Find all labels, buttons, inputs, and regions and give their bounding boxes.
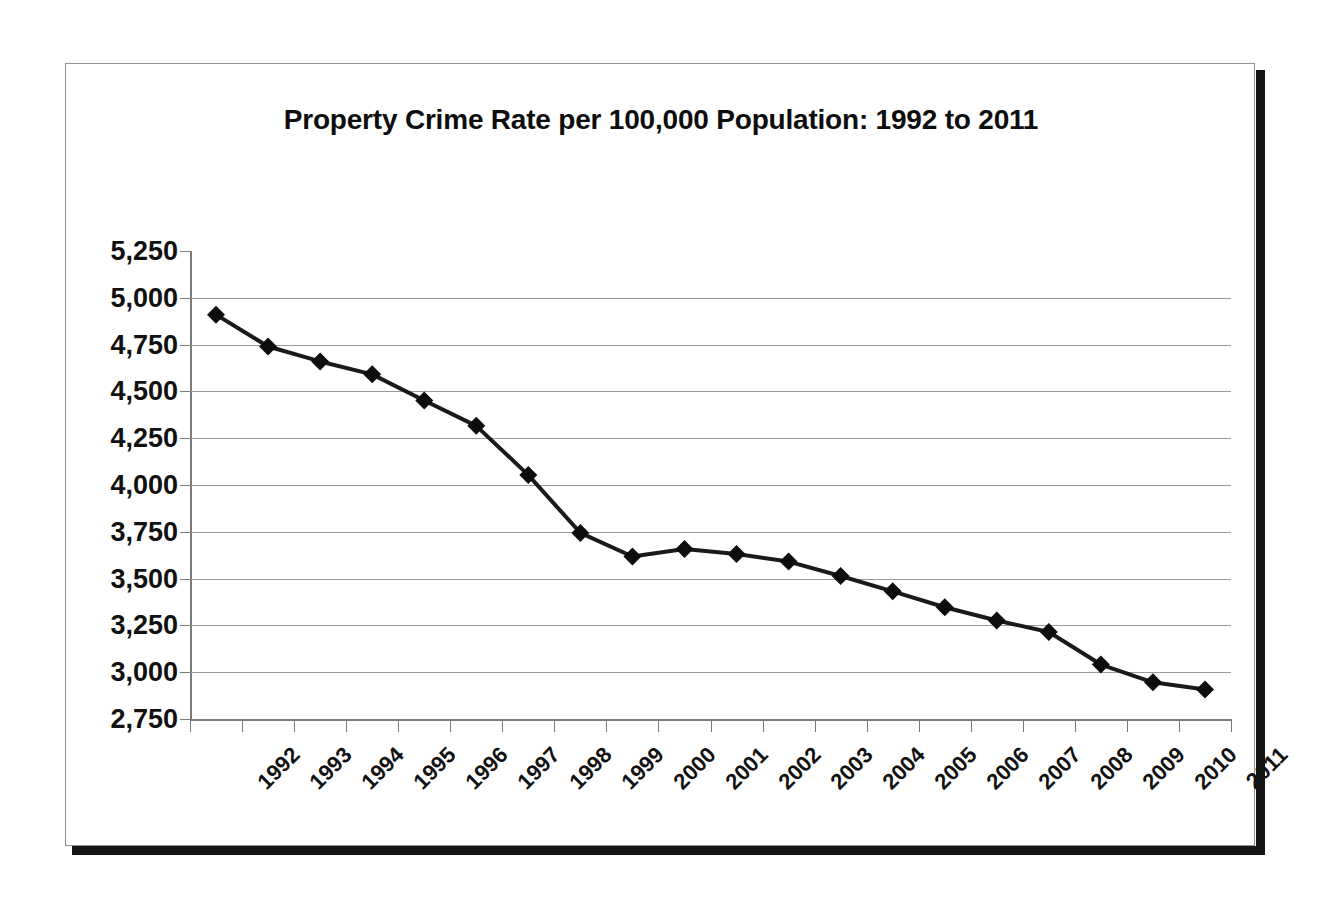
data-point-marker: 2002: 3631 (728, 545, 746, 563)
data-point-marker: 2003: 3591 (780, 553, 798, 571)
frame-shadow-right (1256, 70, 1265, 847)
data-point-marker: 2005: 3432 (884, 582, 902, 600)
data-point-marker: 2011: 2908 (1196, 680, 1214, 698)
data-point-marker: 1993: 4740 (259, 337, 277, 355)
chart-frame: Property Crime Rate per 100,000 Populati… (65, 63, 1255, 846)
line-series-property-crime-rate: 1992: 49101993: 47401994: 46601995: 4591… (66, 64, 1256, 847)
frame-shadow-bottom (72, 846, 1265, 855)
data-point-marker: 1996: 4451 (415, 392, 433, 410)
series-line (216, 315, 1205, 690)
data-point-marker: 1995: 4591 (363, 365, 381, 383)
data-point-marker: 2006: 3347 (936, 598, 954, 616)
data-point-marker: 2001: 3658 (675, 540, 693, 558)
data-point-marker: 1994: 4660 (311, 352, 329, 370)
data-point-marker: 2004: 3514 (832, 567, 850, 585)
data-point-marker: 2010: 2946 (1144, 673, 1162, 691)
data-point-marker: 2000: 3618 (623, 548, 641, 566)
data-point-marker: 2007: 3276 (988, 612, 1006, 630)
data-point-marker: 1992: 4910 (207, 306, 225, 324)
